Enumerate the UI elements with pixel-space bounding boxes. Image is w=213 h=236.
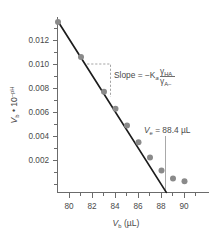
data-point bbox=[124, 123, 130, 129]
ve-annotation-value: = 88.4 µL bbox=[153, 125, 191, 135]
svg-text:Vb (µL): Vb (µL) bbox=[113, 218, 140, 229]
data-point bbox=[182, 178, 188, 184]
svg-text:Slope = −Ka: Slope = −Ka bbox=[114, 70, 159, 81]
data-point bbox=[159, 168, 165, 174]
y-tick-label: 0.010 bbox=[29, 60, 50, 69]
slope-annotation: Slope = −Ka γHA γA– bbox=[114, 66, 175, 87]
x-axis-title: Vb (µL) bbox=[113, 218, 140, 229]
slope-annotation-ka-subscript: a bbox=[155, 75, 159, 81]
slope-construction-guide bbox=[87, 64, 110, 97]
svg-text:Ve = 88.4 µL: Ve = 88.4 µL bbox=[144, 125, 191, 136]
y-axis-title-exponent: –pH bbox=[9, 87, 15, 98]
y-tick-label: 0.008 bbox=[29, 84, 50, 93]
gran-plot-figure: 0.012 0.010 0.008 0.006 0.004 0.002 80 8… bbox=[0, 0, 213, 236]
axes-group bbox=[58, 17, 210, 193]
x-tick-label: 84 bbox=[110, 202, 120, 211]
x-tick-label: 86 bbox=[133, 202, 143, 211]
x-axis-tick-labels: 80 82 84 86 88 90 bbox=[64, 202, 189, 211]
x-tick-label: 82 bbox=[87, 202, 97, 211]
least-squares-fit-line bbox=[58, 22, 166, 193]
data-point bbox=[101, 89, 107, 95]
y-tick-label: 0.006 bbox=[29, 108, 50, 117]
y-axis-title: Vb • 10–pH bbox=[9, 87, 20, 124]
y-axis-tick-labels: 0.012 0.010 0.008 0.006 0.004 0.002 bbox=[29, 36, 50, 165]
data-point bbox=[78, 54, 84, 60]
y-tick-label: 0.004 bbox=[29, 132, 50, 141]
slope-gamma-denominator-subscript: A– bbox=[164, 81, 172, 87]
data-point bbox=[147, 154, 153, 160]
data-points-group bbox=[55, 19, 188, 184]
data-point bbox=[113, 106, 119, 112]
chart-canvas: 0.012 0.010 0.008 0.006 0.004 0.002 80 8… bbox=[0, 0, 213, 236]
data-point bbox=[170, 176, 176, 182]
equivalence-volume-annotation: Ve = 88.4 µL bbox=[144, 125, 191, 136]
slope-annotation-text: Slope = −K bbox=[114, 70, 156, 80]
x-tick-label: 88 bbox=[156, 202, 166, 211]
data-point bbox=[136, 139, 142, 145]
x-tick-label: 80 bbox=[64, 202, 74, 211]
x-tick-label: 90 bbox=[179, 202, 189, 211]
svg-text:γA–: γA– bbox=[160, 76, 172, 87]
y-axis-title-mid: • 10 bbox=[9, 97, 19, 115]
x-axis-title-units: (µL) bbox=[122, 218, 140, 228]
y-tick-label: 0.002 bbox=[29, 156, 50, 165]
y-tick-label: 0.012 bbox=[29, 36, 50, 45]
svg-text:Vb • 10–pH: Vb • 10–pH bbox=[9, 87, 20, 124]
data-point bbox=[55, 19, 61, 25]
